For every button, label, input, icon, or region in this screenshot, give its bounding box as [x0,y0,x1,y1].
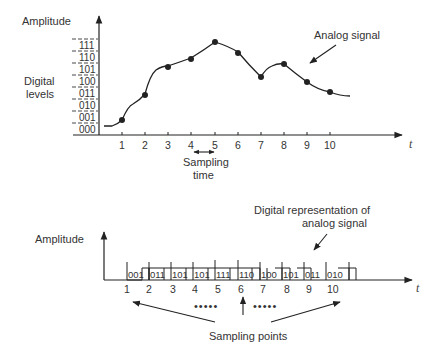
svg-text:5: 5 [212,139,218,151]
code-2: 011 [150,269,165,280]
svg-text:3: 3 [165,139,171,151]
svg-text:5: 5 [215,283,221,295]
svg-text:3: 3 [170,283,176,295]
digital-representation-label-2: analog signal [302,217,367,229]
svg-text:2: 2 [146,283,152,295]
analog-signal-curve [104,42,350,126]
svg-text:10: 10 [324,139,336,151]
bottom-x-tick-labels: 1 2 3 4 5 6 7 8 9 10 [124,283,339,295]
top-t-label: t [409,137,413,151]
digital-representation-arrow [314,234,327,250]
svg-text:4: 4 [192,283,198,295]
ellipsis-right: ••••• [253,300,277,312]
level-001: 001 [79,112,96,123]
sample-points-top [119,39,333,123]
level-101: 101 [79,64,96,75]
sampling-time-label-2: time [193,169,214,181]
bottom-t-label: t [416,281,420,295]
svg-text:1: 1 [124,283,130,295]
bottom-y-axis-label: Amplitude [35,233,84,245]
svg-text:7: 7 [258,139,264,151]
svg-text:10: 10 [327,283,339,295]
svg-text:6: 6 [235,139,241,151]
code-3: 101 [172,269,188,280]
level-011: 011 [79,88,95,99]
code-9: 011 [305,269,320,280]
level-111: 111 [79,40,95,51]
code-1: 001 [128,269,144,280]
code-7: 100 [261,269,277,280]
top-x-tick-labels: 1 2 3 4 5 6 7 8 9 10 [119,139,336,151]
level-010: 010 [79,100,96,111]
analog-signal-label: Analog signal [314,29,380,41]
sampling-points-label: Sampling points [209,330,288,342]
code-6: 110 [239,269,254,280]
svg-text:9: 9 [306,283,312,295]
bit-codes: 001 011 101 101 111 110 100 101 011 010 [128,269,343,280]
diagram-canvas: Amplitude Digital levels t 111 110 101 1… [0,0,439,360]
code-8: 101 [283,269,299,280]
code-10: 010 [327,269,343,280]
top-y-axis-label: Amplitude [22,15,71,27]
svg-text:2: 2 [142,139,148,151]
sampling-time-label-1: Sampling [183,156,229,168]
svg-text:9: 9 [304,139,310,151]
svg-text:8: 8 [281,139,287,151]
digital-levels-label-2: levels [26,88,55,100]
digital-levels-label-1: Digital [24,75,55,87]
analog-signal-arrow [310,45,336,63]
svg-text:7: 7 [260,283,266,295]
code-4: 101 [194,269,210,280]
svg-text:8: 8 [284,283,290,295]
level-000: 000 [79,124,96,135]
code-5: 111 [216,269,230,280]
sampling-point-arrow-right [271,302,340,322]
digital-representation-label-1: Digital representation of [254,204,371,216]
top-chart: Amplitude Digital levels t 111 110 101 1… [22,15,413,181]
svg-text:6: 6 [238,283,244,295]
level-100: 100 [79,76,96,87]
svg-text:4: 4 [188,139,194,151]
ellipsis-left: ••••• [194,300,218,312]
svg-text:1: 1 [119,139,125,151]
bottom-chart: Amplitude t 001 011 101 101 111 110 100 … [35,204,420,342]
level-110: 110 [79,52,95,63]
